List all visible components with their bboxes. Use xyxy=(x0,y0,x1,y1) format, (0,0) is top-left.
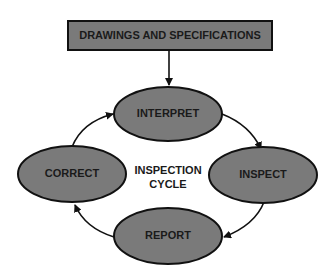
arrow-interpret-to-inspect xyxy=(222,114,261,149)
interpret-label: INTERPRET xyxy=(114,107,222,119)
inspect-label: INSPECT xyxy=(209,168,317,180)
correct-label: CORRECT xyxy=(18,167,126,179)
arrow-inspect-to-report xyxy=(224,202,264,237)
report-label: REPORT xyxy=(114,229,222,241)
center-label-line2: CYCLE xyxy=(128,178,208,190)
arrow-report-to-correct xyxy=(75,205,114,237)
source-label: DRAWINGS AND SPECIFICATIONS xyxy=(68,29,272,41)
arrow-correct-to-interpret xyxy=(72,114,113,147)
center-label-line1: INSPECTION xyxy=(128,164,208,176)
inspection-cycle-diagram: DRAWINGS AND SPECIFICATIONS INTERPRET IN… xyxy=(0,0,334,278)
